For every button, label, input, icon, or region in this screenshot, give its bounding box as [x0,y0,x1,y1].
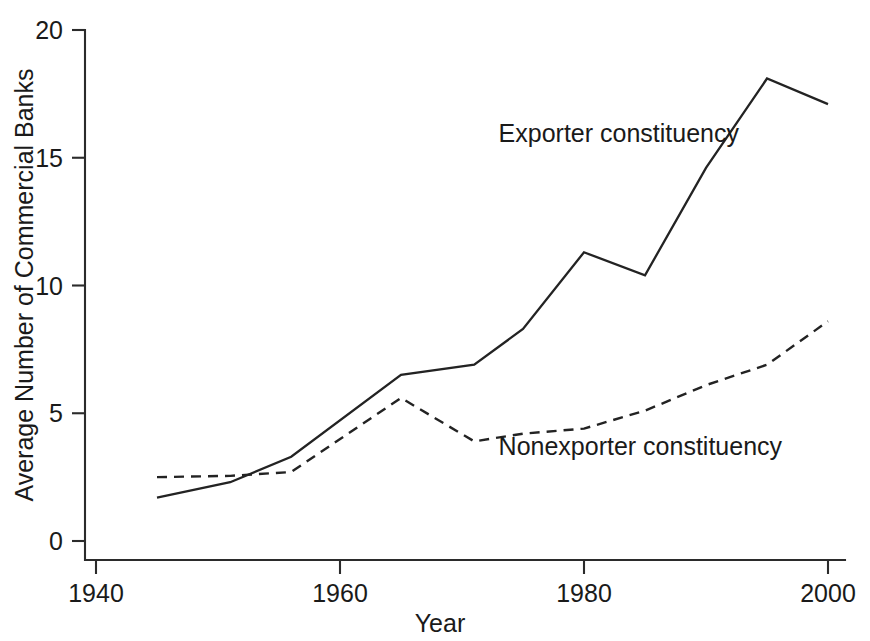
y-tick-label: 0 [49,527,63,555]
y-tick-label: 5 [49,399,63,427]
y-axis-title: Average Number of Commercial Banks [10,68,38,501]
x-tick-label: 2000 [800,579,856,607]
axis-spine [85,30,845,560]
series-annotations: Exporter constituencyNonexporter constit… [499,119,783,460]
x-tick-label: 1960 [312,579,368,607]
line-chart-canvas: 051015201940196019802000 Exporter consti… [0,0,870,641]
series-label-0: Exporter constituency [499,119,740,147]
y-tick-label: 10 [35,272,63,300]
x-tick-label: 1980 [556,579,612,607]
y-tick-label: 15 [35,144,63,172]
x-tick-label: 1940 [68,579,124,607]
axes [85,30,845,560]
series-label-1: Nonexporter constituency [499,432,783,460]
y-tick-label: 20 [35,16,63,44]
axis-tick-labels: 051015201940196019802000 [35,16,856,607]
chart-figure: 051015201940196019802000 Exporter consti… [0,0,870,641]
x-axis-title: Year [415,609,466,637]
